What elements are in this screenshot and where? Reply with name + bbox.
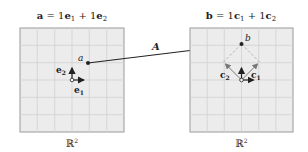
left-origin-icon — [70, 78, 74, 82]
right-panel: b = 1c1 + 1c2 — [190, 10, 293, 149]
mapping-label: A — [151, 41, 160, 52]
left-panel: a = 1e1 + 1e2 e1 e2 a ℝ — [20, 10, 124, 149]
point-a-label: a — [78, 53, 83, 63]
linear-map-diagram: a = 1e1 + 1e2 e1 e2 a ℝ — [0, 0, 308, 152]
right-origin-icon — [240, 78, 244, 82]
right-space-label: ℝ2 — [235, 137, 247, 149]
right-title: b = 1c1 + 1c2 — [206, 10, 276, 23]
point-b-label: b — [245, 33, 251, 43]
left-space-label: ℝ2 — [66, 137, 78, 149]
point-b-icon — [240, 42, 244, 46]
left-title: a = 1e1 + 1e2 — [37, 10, 107, 23]
